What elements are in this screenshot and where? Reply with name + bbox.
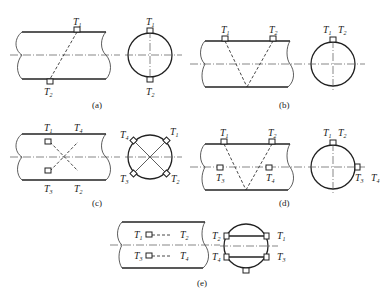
- label-t3-section: T3: [355, 172, 364, 184]
- label-t4: T4: [74, 122, 83, 134]
- transducer-t1: [222, 36, 228, 41]
- label-t4: T4: [266, 172, 275, 184]
- label-t3-section: T3: [120, 173, 129, 185]
- pipe-section-view-d: T1 T2 T3 T4: [308, 127, 380, 193]
- caption-b: (b): [279, 100, 290, 110]
- label-t2: T2: [74, 183, 83, 195]
- label-t3-section: T3: [277, 251, 286, 263]
- panel-b: T1 T2 T1 T2 (b): [190, 24, 365, 110]
- transducer-t2-section: [224, 233, 229, 239]
- panel-a: T1 T2 T1 T2 (a): [10, 16, 182, 110]
- label-t2: T2: [268, 127, 277, 139]
- label-t2: T2: [44, 86, 53, 98]
- transducer-t1-t2-section: [330, 37, 336, 42]
- caption-a: (a): [92, 100, 102, 110]
- label-t1-section: T1: [277, 230, 286, 242]
- label-t4-section: T4: [212, 251, 221, 263]
- transducer-t2: [47, 79, 53, 84]
- transducer-t1-section: [264, 233, 269, 239]
- label-t1: T1: [220, 127, 229, 139]
- transducer-t1: [146, 232, 152, 237]
- transducer-t3: [146, 253, 152, 258]
- transducer-t1: [45, 139, 51, 144]
- label-t1-section: T1: [323, 127, 332, 139]
- caption-c: (c): [92, 198, 102, 208]
- transducer-t4-section: [224, 254, 229, 260]
- transducer-t1: [221, 139, 227, 144]
- transducer-t3-section: [264, 254, 269, 260]
- pipe-side-view-d: T1 T2 T3 T4: [190, 127, 305, 190]
- pipe-section-view-b: T1 T2: [308, 24, 365, 90]
- label-t2: T2: [180, 229, 189, 241]
- label-t1-section: T1: [323, 24, 332, 36]
- transducer-t2-section: [147, 77, 153, 82]
- label-t4: T4: [180, 250, 189, 262]
- pipe-section-view-e: T2 T1 T4 T3: [212, 224, 286, 273]
- label-t3: T3: [134, 250, 143, 262]
- transducer-t3: [45, 168, 51, 173]
- caption-e: (e): [197, 278, 207, 288]
- label-t1: T1: [221, 24, 230, 36]
- transducer-t3-t4-section: [355, 164, 360, 170]
- transducer-t4: [266, 165, 272, 170]
- label-t1: T1: [134, 229, 143, 241]
- panel-e: T1 T2 T3 T4 T2 T1 T4 T3 (e): [110, 222, 286, 288]
- label-t4-section: T4: [371, 172, 380, 184]
- transducer-t1-section: [147, 28, 153, 33]
- label-t2-section: T2: [146, 86, 155, 98]
- pipe-side-view-c: T1 T4 T3 T2: [10, 122, 120, 195]
- transducer-t3: [217, 165, 223, 170]
- label-t1-section: T1: [146, 16, 155, 28]
- label-t1-section: T1: [170, 126, 179, 138]
- pipe-side-view-a: T1 T2: [10, 16, 120, 98]
- pipe-side-view-b: T1 T2: [190, 24, 305, 87]
- panel-d: T1 T2 T3 T4 T1 T2 T3 T4 (d): [190, 127, 380, 208]
- label-t2-section: T2: [338, 127, 347, 139]
- label-t1: T1: [44, 122, 53, 134]
- transducer-t1-t2-section: [330, 140, 336, 145]
- label-t1: T1: [73, 16, 82, 28]
- caption-d: (d): [279, 198, 290, 208]
- panel-c: T1 T4 T3 T2 T4 T1 T3 T2 (c): [10, 122, 182, 208]
- label-t2-section: T2: [338, 24, 347, 36]
- label-t2-section: T2: [212, 230, 221, 242]
- pipe-section-view-c: T4 T1 T3 T2: [120, 126, 182, 185]
- transducer-t2: [270, 36, 276, 41]
- ultrasonic-transducer-arrangements-diagram: T1 T2 T1 T2 (a) T1 T2: [0, 0, 389, 300]
- label-t2-section: T2: [171, 173, 180, 185]
- label-t3: T3: [216, 172, 225, 184]
- label-t3: T3: [44, 183, 53, 195]
- pipe-side-view-e: T1 T2 T3 T4: [110, 222, 220, 268]
- label-t4-section: T4: [120, 129, 129, 141]
- transducer-t2: [269, 139, 275, 144]
- transducer-bottom-section: [243, 268, 249, 273]
- label-t2: T2: [269, 24, 278, 36]
- pipe-section-view-a: T1 T2: [125, 16, 182, 98]
